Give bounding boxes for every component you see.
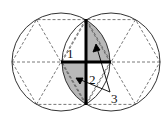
pointer-3-label: 3: [111, 91, 118, 106]
shaded-upper-right-region: [86, 0, 146, 62]
region-1-label: 1: [67, 46, 74, 61]
diagram-canvas: 1 2 3: [0, 0, 166, 117]
region-2-label: 2: [89, 72, 96, 87]
two-circles-diagram: 1 2 3: [0, 0, 166, 117]
